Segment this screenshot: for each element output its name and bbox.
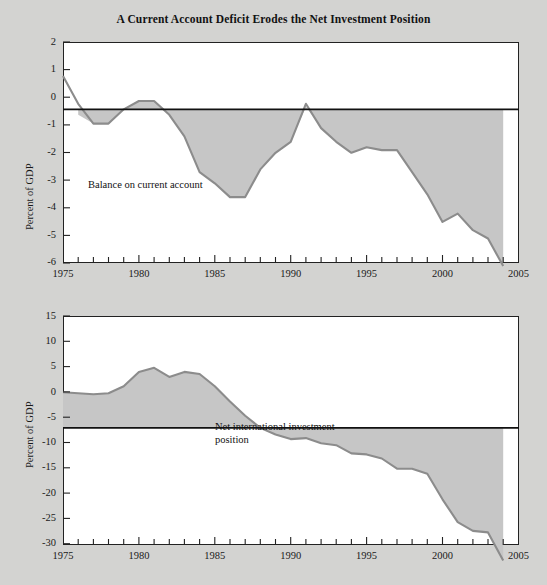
x-tick-top-2: 1985: [195, 268, 235, 279]
x-tick-top-6: 2005: [498, 268, 538, 279]
y-tick-bottom-7: -20: [22, 487, 56, 498]
y-tick-top-0: 2: [30, 36, 56, 47]
y-tick-top-3: -1: [26, 118, 56, 129]
current-account-series: [63, 76, 503, 266]
y-tick-bottom-1: 10: [28, 335, 56, 346]
y-tick-top-7: -5: [26, 229, 56, 240]
x-tick-top-1: 1980: [119, 268, 159, 279]
current-account-plot-svg: [0, 0, 547, 300]
y-tick-top-2: 0: [30, 91, 56, 102]
y-tick-bottom-2: 5: [28, 360, 56, 371]
y-tick-top-1: 1: [30, 63, 56, 74]
x-tick-bottom-5: 2000: [423, 550, 463, 561]
x-tick-bottom-6: 2005: [498, 550, 538, 561]
y-ticks-top: [63, 42, 70, 263]
x-tick-top-3: 1990: [271, 268, 311, 279]
y-tick-bottom-3: 0: [28, 386, 56, 397]
x-tick-bottom-4: 1995: [347, 550, 387, 561]
x-tick-top-0: 1975: [43, 268, 83, 279]
y-tick-top-5: -3: [26, 174, 56, 185]
y-tick-top-6: -4: [26, 201, 56, 212]
net-investment-series: [63, 368, 503, 561]
x-tick-bottom-0: 1975: [43, 550, 83, 561]
panel-net-investment-position: Percent of GDP: [0, 300, 547, 585]
series-label-current-account: Balance on current account: [88, 178, 203, 191]
y-tick-bottom-9: -30: [22, 537, 56, 548]
x-tick-bottom-3: 1990: [271, 550, 311, 561]
x-tick-bottom-2: 1985: [195, 550, 235, 561]
y-tick-bottom-5: -10: [22, 436, 56, 447]
y-tick-bottom-8: -25: [22, 512, 56, 523]
x-ticks-top: [78, 255, 503, 263]
x-tick-top-4: 1995: [347, 268, 387, 279]
y-tick-top-4: -2: [26, 146, 56, 157]
y-tick-bottom-4: -5: [24, 411, 56, 422]
net-investment-area: [63, 368, 503, 561]
y-tick-top-8: -6: [26, 256, 56, 267]
series-label-net-investment-position: Net international investment position: [215, 420, 335, 446]
y-tick-bottom-6: -15: [22, 461, 56, 472]
y-tick-bottom-0: 15: [28, 310, 56, 321]
x-tick-top-5: 2000: [423, 268, 463, 279]
y-ticks-bottom: [63, 316, 70, 544]
x-ticks-bottom: [78, 537, 503, 545]
x-tick-bottom-1: 1980: [119, 550, 159, 561]
panel-current-account: Percent of GDP: [0, 0, 547, 300]
